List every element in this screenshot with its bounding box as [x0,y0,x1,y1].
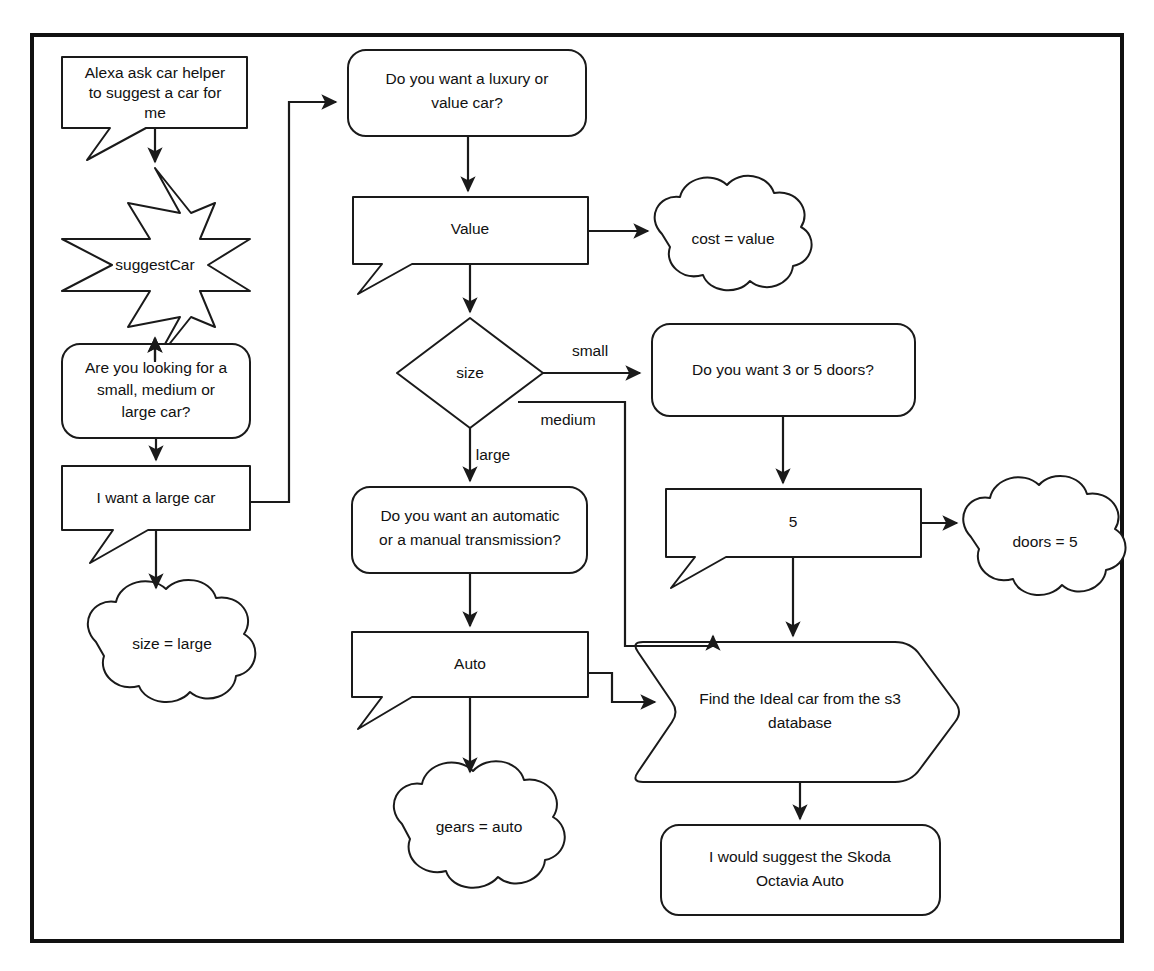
node-ask-cost: Do you want a luxury or value car? [348,50,586,136]
node-utterance-line-1: to suggest a car for [89,84,222,101]
node-decision-size: size [397,318,543,428]
edge-label-medium: medium [540,411,595,428]
node-ask-gears-line-1: or a manual transmission? [379,531,561,548]
node-ask-gears: Do you want an automatic or a manual tra… [352,487,587,573]
node-var-doors: doors = 5 [963,476,1125,595]
node-answer-cost-label: Value [451,220,490,237]
node-var-gears-label: gears = auto [436,818,523,835]
edge-label-large: large [476,446,510,463]
node-var-cost-label: cost = value [691,230,774,247]
node-ask-size-line-0: Are you looking for a [85,359,228,376]
flowchart-canvas: Alexa ask car helper to suggest a car fo… [0,0,1154,971]
edge-answersize-to-askcost [250,102,336,502]
edge-label-small: small [572,342,608,359]
node-var-size-label: size = large [132,635,212,652]
node-var-size: size = large [88,580,256,702]
node-ask-size-line-1: small, medium or [97,381,215,398]
node-result-line-0: I would suggest the Skoda [709,848,891,865]
node-ask-cost-line-1: value car? [431,94,503,111]
node-suggest-car-label: suggestCar [115,256,194,273]
node-result-line-1: Octavia Auto [756,872,844,889]
node-result: I would suggest the Skoda Octavia Auto [661,825,940,915]
node-suggest-car: suggestCar [62,168,250,362]
node-find-car-line-1: database [768,714,832,731]
node-ask-doors: Do you want 3 or 5 doors? [652,324,915,416]
node-ask-size-line-2: large car? [122,403,191,420]
node-var-doors-label: doors = 5 [1012,533,1077,550]
node-ask-doors-label: Do you want 3 or 5 doors? [692,361,874,378]
node-find-car: Find the Ideal car from the s3 database [635,642,959,782]
flowchart-svg: Alexa ask car helper to suggest a car fo… [0,0,1154,971]
node-utterance-line-0: Alexa ask car helper [85,64,225,81]
node-decision-size-label: size [456,364,484,381]
node-answer-size-label: I want a large car [97,489,216,506]
node-answer-doors-label: 5 [789,513,798,530]
node-ask-gears-line-0: Do you want an automatic [380,507,559,524]
node-var-cost: cost = value [655,176,812,290]
node-utterance-line-2: me [144,104,166,121]
node-find-car-line-0: Find the Ideal car from the s3 [699,690,901,707]
node-answer-gears-label: Auto [454,655,486,672]
node-ask-cost-line-0: Do you want a luxury or [386,70,549,87]
edge-answergears-to-findcar [588,673,655,702]
node-var-gears: gears = auto [394,761,565,888]
